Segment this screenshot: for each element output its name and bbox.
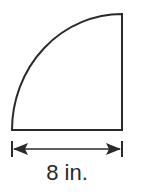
dimension-label: 8 in.: [0, 160, 134, 186]
quarter-circle-shape: [12, 14, 122, 130]
quarter-circle-diagram: 8 in.: [0, 0, 141, 192]
